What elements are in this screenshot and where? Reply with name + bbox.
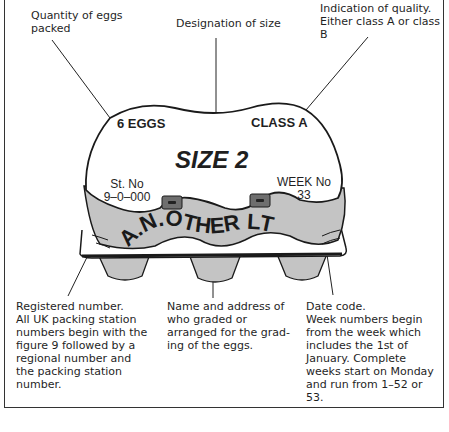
carton-size: SIZE 2 — [175, 147, 248, 173]
carton-egg-count: 6 EGGS — [117, 117, 165, 130]
label-registered-number: Registered number. All UK packing statio… — [16, 300, 147, 391]
label-name-address: Name and address of who graded or arrang… — [167, 300, 290, 352]
carton-class: CLASS A — [251, 116, 308, 129]
carton-week: WEEK No 33 — [272, 176, 336, 202]
carton-station: St. No 9–0–000 — [97, 178, 157, 204]
label-date-code: Date code. Week numbers begin from the w… — [306, 300, 434, 404]
